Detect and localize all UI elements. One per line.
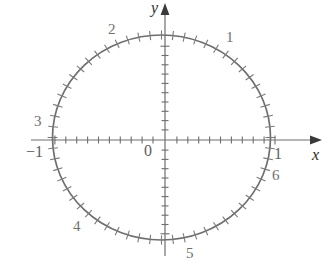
unit-circle-svg <box>0 0 333 266</box>
arc-marker-4: 4 <box>73 219 81 234</box>
unit-circle-figure: y x 0 −1 1 1 2 3 4 5 6 <box>0 0 333 266</box>
origin-label: 0 <box>144 143 152 159</box>
arc-marker-2: 2 <box>108 22 116 37</box>
y-axis-label: y <box>151 0 158 16</box>
arc-marker-3: 3 <box>34 114 42 129</box>
x-axis-arrowhead <box>310 136 322 145</box>
arc-marker-6: 6 <box>272 168 280 183</box>
x-tick-label-minus-one: −1 <box>26 144 43 160</box>
arc-marker-5: 5 <box>186 246 194 261</box>
x-axis-label: x <box>312 147 319 163</box>
x-tick-label-one: 1 <box>274 146 282 162</box>
y-axis-arrowhead <box>161 3 170 15</box>
circle-radial-ticks <box>48 30 276 244</box>
unit-circle-curve <box>53 35 271 240</box>
arc-marker-1: 1 <box>226 30 234 45</box>
